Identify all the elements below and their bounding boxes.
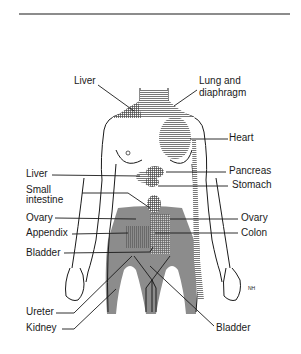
heart-zone	[159, 117, 191, 159]
liver-shoulder-zone	[112, 102, 142, 118]
left-nipple	[126, 151, 130, 155]
stomach-zone	[145, 177, 159, 187]
right-arm	[216, 178, 230, 268]
label-small-intestine-2: intestine	[26, 194, 64, 205]
colon-zone	[150, 214, 170, 254]
label-kidney: Kidney	[26, 322, 57, 333]
label-lung-1: Lung and	[199, 75, 241, 86]
artist-signature: NH	[248, 285, 256, 291]
left-hand	[66, 268, 85, 301]
label-ureter: Ureter	[26, 306, 54, 317]
right-hand	[223, 268, 240, 301]
label-ovary-right: Ovary	[241, 212, 268, 223]
label-bladder-right: Bladder	[216, 322, 251, 333]
label-lung-2: diaphragm	[199, 87, 246, 98]
label-appendix: Appendix	[26, 227, 68, 238]
label-ovary-left: Ovary	[26, 212, 53, 223]
left-arm	[72, 178, 84, 268]
appendix-zone	[126, 226, 152, 248]
label-pancreas: Pancreas	[229, 165, 271, 176]
referred-pain-diagram: Liver Lung and diaphragm Heart Liver Pan…	[0, 0, 301, 354]
label-liver-top: Liver	[74, 75, 96, 86]
left-breast	[116, 150, 142, 163]
label-liver: Liver	[26, 168, 48, 179]
label-stomach: Stomach	[232, 179, 271, 190]
label-heart: Heart	[229, 132, 254, 143]
small-intestine-zone	[147, 195, 161, 213]
label-colon: Colon	[241, 227, 267, 238]
pancreas-zone	[146, 166, 164, 178]
label-bladder-left: Bladder	[26, 247, 61, 258]
